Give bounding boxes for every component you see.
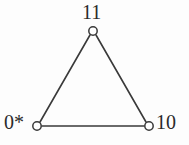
edge-apex-bottom-left bbox=[40, 35, 90, 122]
node-label-bottom-left: 0* bbox=[4, 112, 24, 132]
node-bottom-right bbox=[145, 122, 153, 130]
edge-apex-bottom-right bbox=[96, 35, 146, 122]
node-bottom-left bbox=[33, 122, 41, 130]
node-label-bottom-right: 10 bbox=[156, 112, 176, 132]
node-apex bbox=[89, 27, 97, 35]
graph-figure: 11 0* 10 bbox=[0, 0, 189, 145]
node-label-apex: 11 bbox=[82, 2, 101, 22]
